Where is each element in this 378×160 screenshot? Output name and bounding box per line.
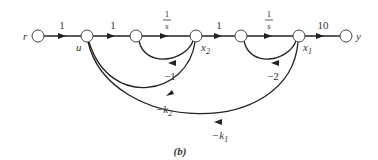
label-r: r [23, 30, 28, 42]
gain-x1-y: 10 [318, 19, 330, 31]
gain-x1-n5: −2 [267, 70, 279, 82]
gain-n3-x2: 1 s [163, 9, 171, 31]
gain-n5-x1: 1 s [265, 9, 273, 31]
edge-n5-x1 [247, 33, 293, 39]
gain-u-n3: 1 [110, 19, 116, 31]
arrow-icon [107, 33, 115, 39]
label-u: u [76, 41, 82, 53]
label-x1: x1 [302, 41, 312, 56]
edge-x1-u-feedback [88, 42, 298, 125]
edge-x1-n5-feedback [244, 41, 296, 66]
svg-text:s: s [165, 21, 169, 31]
edge-x2-n5 [202, 33, 235, 39]
svg-text:1: 1 [165, 9, 170, 19]
arrow-icon [58, 33, 66, 39]
svg-text:1: 1 [267, 9, 272, 19]
gain-x2-u: −k2 [156, 103, 172, 118]
label-x2: x2 [200, 41, 210, 56]
gain-r-u: 1 [59, 19, 65, 31]
gain-x2-n3: −1 [164, 70, 176, 82]
gain-x1-u: −k1 [212, 129, 228, 144]
edge-r-u [44, 33, 81, 39]
arrow-icon [160, 33, 168, 39]
node-5 [235, 30, 247, 42]
node-y [340, 30, 352, 42]
edge-n3-x2 [142, 33, 190, 39]
edge-x2-n3-feedback [139, 41, 193, 66]
svg-text:s: s [267, 21, 271, 31]
gain-x2-n5: 1 [216, 19, 222, 31]
arrow-icon [168, 60, 176, 66]
arrow-icon [271, 60, 279, 66]
edge-x1-y [305, 33, 340, 39]
edge-u-n3 [93, 33, 130, 39]
arrow-icon [214, 33, 222, 39]
edge-x2-u-feedback [89, 42, 195, 96]
arrow-icon [264, 33, 272, 39]
arrow-icon [214, 119, 222, 125]
signal-flow-graph: r u x2 x1 y 1 1 1 s 1 1 s 10 −1 −2 −k2 −… [0, 0, 378, 160]
figure-caption: (b) [174, 145, 187, 158]
node-r [32, 30, 44, 42]
node-u [81, 30, 93, 42]
arrow-icon [166, 90, 174, 96]
arrow-icon [316, 33, 324, 39]
label-y: y [355, 30, 361, 42]
node-3 [130, 30, 142, 42]
